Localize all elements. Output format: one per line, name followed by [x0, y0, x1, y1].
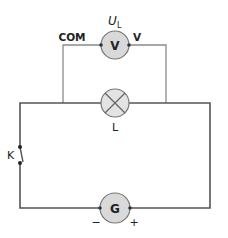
source-plus-label: +: [129, 216, 138, 229]
voltmeter-v-terminal-label: V: [133, 31, 142, 43]
voltage-label-main: U: [108, 14, 117, 28]
main-circuit-wires: [20, 103, 210, 208]
switch-label: K: [7, 149, 15, 162]
voltmeter-symbol: V: [110, 39, 120, 53]
lamp-l[interactable]: [101, 89, 129, 117]
voltmeter-com-terminal-label: COM: [58, 31, 85, 43]
voltage-label-sub: L: [117, 21, 122, 30]
circuit-svg: K V COM V U L L G − +: [0, 0, 228, 238]
source-symbol: G: [110, 202, 120, 216]
circuit-diagram: K V COM V U L L G − +: [0, 0, 228, 238]
source-minus-label: −: [91, 216, 100, 229]
switch-k[interactable]: [18, 145, 23, 165]
lamp-label: L: [112, 121, 119, 134]
